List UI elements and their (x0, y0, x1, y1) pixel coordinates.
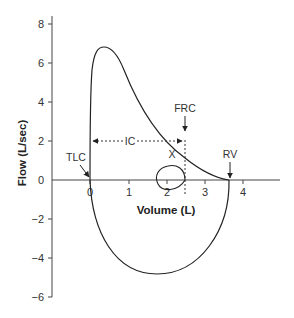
y-tick-label: 6 (38, 57, 44, 69)
ic-label: IC (125, 135, 136, 147)
x-axis-title: Volume (L) (137, 204, 196, 216)
x-tick-label: 2 (164, 186, 170, 198)
y-tick-label: −4 (31, 252, 44, 264)
x-axis: 0 1 2 3 4 Volume (L) (52, 180, 280, 216)
x-marker-label: X (168, 148, 175, 160)
y-tick-label: 8 (38, 18, 44, 30)
y-tick-label: 2 (38, 135, 44, 147)
x-tick-label: 1 (126, 186, 132, 198)
frc-label: FRC (174, 102, 196, 114)
tlc-label: TLC (66, 151, 86, 163)
y-tick-label: 0 (38, 174, 44, 186)
tidal-loop (156, 166, 185, 190)
y-tick-label: −6 (31, 291, 44, 303)
y-tick-label: 4 (38, 96, 44, 108)
rv-label: RV (223, 148, 237, 160)
y-tick-label: −2 (31, 213, 44, 225)
tlc-arrow-icon (80, 165, 89, 177)
expiratory-curve (90, 47, 229, 180)
flow-volume-loop-diagram: 8 6 4 2 0 −2 −4 −6 Flow (L/sec) 0 1 2 3 … (0, 0, 294, 318)
x-tick-label: 3 (202, 186, 208, 198)
y-axis-title: Flow (L/sec) (16, 120, 28, 187)
y-axis: 8 6 4 2 0 −2 −4 −6 Flow (L/sec) (16, 16, 52, 303)
inspiratory-curve (90, 180, 229, 274)
x-tick-label: 4 (240, 186, 246, 198)
